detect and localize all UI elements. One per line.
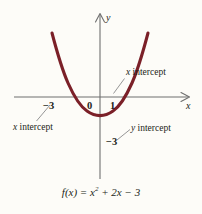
annotation-y-intercept: y intercept bbox=[131, 124, 171, 134]
annotation-x-intercept-right-text: intercept bbox=[130, 67, 166, 77]
caption-suffix: + 2x − 3 bbox=[98, 186, 140, 198]
x-tick-label-neg3: −3 bbox=[43, 101, 54, 112]
annotation-y-intercept-text: intercept bbox=[135, 123, 171, 133]
annotation-x-intercept-left: x intercept bbox=[13, 123, 53, 133]
origin-label: 0 bbox=[87, 101, 92, 112]
y-axis-label: y bbox=[106, 13, 110, 23]
annotation-x-intercept-right: x intercept bbox=[126, 68, 166, 78]
y-tick-label-neg3: −3 bbox=[106, 137, 117, 148]
graph-canvas bbox=[0, 0, 202, 214]
function-caption: f(x) = x2 + 2x − 3 bbox=[0, 186, 202, 198]
caption-prefix: f(x) = x bbox=[62, 186, 95, 198]
leader-line-x-intercept-right bbox=[114, 79, 125, 94]
leader-line-y-intercept bbox=[117, 130, 130, 141]
x-tick-label-one: 1 bbox=[110, 101, 115, 112]
parabola-figure: y x −3 0 1 −3 x intercept x intercept y … bbox=[0, 0, 202, 214]
x-axis-label: x bbox=[186, 101, 190, 111]
annotation-x-intercept-left-text: intercept bbox=[17, 122, 53, 132]
